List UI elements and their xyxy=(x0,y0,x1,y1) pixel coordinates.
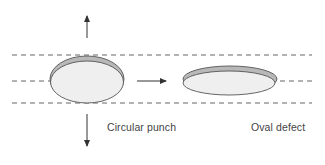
circular-punch-shape xyxy=(50,56,124,103)
label-oval-defect: Oval defect xyxy=(251,121,305,133)
label-circular-punch: Circular punch xyxy=(107,121,176,133)
diagram-canvas xyxy=(0,0,325,165)
oval-defect-shape xyxy=(183,66,277,95)
